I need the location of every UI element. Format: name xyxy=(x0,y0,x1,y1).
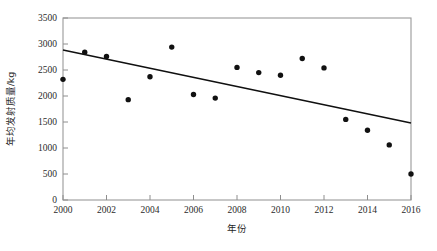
plot-frame xyxy=(63,18,411,200)
data-point xyxy=(213,95,218,100)
x-tick-label: 2004 xyxy=(141,205,160,215)
y-tick-label: 1000 xyxy=(38,143,57,153)
data-point xyxy=(169,44,174,49)
x-tick-label: 2010 xyxy=(271,205,290,215)
y-axis-tick-labels: 0500100015002000250030003500 xyxy=(38,13,57,205)
trend-line-series xyxy=(63,50,411,123)
data-point xyxy=(82,50,87,55)
y-tick-label: 1500 xyxy=(38,117,57,127)
y-tick-label: 500 xyxy=(43,169,58,179)
data-point xyxy=(321,65,326,70)
x-tick-label: 2000 xyxy=(54,205,73,215)
data-point xyxy=(343,117,348,122)
data-point xyxy=(300,56,305,61)
x-axis-ticks xyxy=(63,195,411,200)
y-axis-ticks xyxy=(63,18,68,200)
x-tick-label: 2012 xyxy=(315,205,334,215)
data-point xyxy=(147,74,152,79)
data-point xyxy=(234,65,239,70)
scatter-plot: 0500100015002000250030003500 20002002200… xyxy=(0,0,437,251)
data-point xyxy=(365,128,370,133)
scatter-point-series xyxy=(60,44,413,176)
x-axis-title: 年份 xyxy=(227,223,247,234)
y-tick-label: 3000 xyxy=(38,39,57,49)
data-point xyxy=(60,77,65,82)
x-tick-label: 2016 xyxy=(402,205,421,215)
data-point xyxy=(278,73,283,78)
x-tick-label: 2006 xyxy=(184,205,203,215)
x-tick-label: 2008 xyxy=(228,205,247,215)
data-point xyxy=(408,171,413,176)
y-tick-label: 3500 xyxy=(38,13,57,23)
data-point xyxy=(256,70,261,75)
y-tick-label: 0 xyxy=(52,195,57,205)
y-tick-label: 2000 xyxy=(38,91,57,101)
y-tick-label: 2500 xyxy=(38,65,57,75)
data-point xyxy=(104,54,109,59)
data-point xyxy=(387,142,392,147)
data-point xyxy=(126,97,131,102)
y-axis-title: 年均发射质量/kg xyxy=(5,72,16,147)
chart-figure: 0500100015002000250030003500 20002002200… xyxy=(0,0,437,251)
trend-line xyxy=(63,50,411,123)
x-axis-tick-labels: 200020022004200620082010201220142016 xyxy=(54,205,421,215)
x-tick-label: 2002 xyxy=(97,205,116,215)
x-tick-label: 2014 xyxy=(358,205,377,215)
data-point xyxy=(191,92,196,97)
